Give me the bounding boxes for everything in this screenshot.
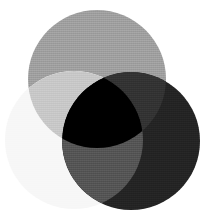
venn-diagram-canvas (0, 0, 206, 223)
venn-svg (0, 0, 206, 223)
